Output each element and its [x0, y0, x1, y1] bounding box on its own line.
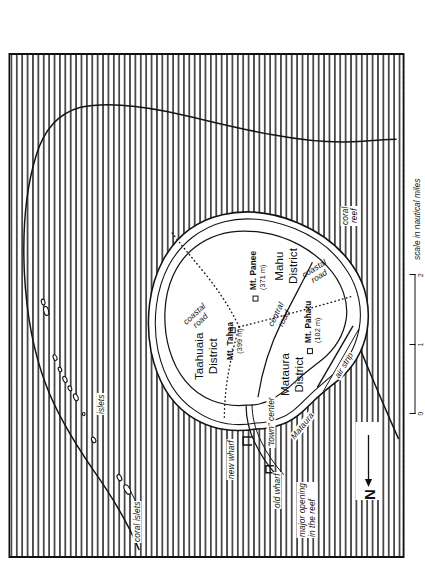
peak-marker-pahatu	[307, 349, 312, 354]
coral-reef-line2: reef	[348, 208, 358, 223]
district-name-line2: District	[292, 357, 304, 393]
scale-tick-0	[409, 413, 415, 414]
peak-elevation: (102 m)	[313, 301, 321, 343]
north-arrow: N	[355, 422, 381, 500]
scale-label-0: 0	[416, 412, 423, 416]
district-name-line1: Mahu	[272, 251, 284, 280]
label-coral-reef: coral reef	[340, 206, 359, 226]
figure-page: Taahuaia District Mataura District Mahu …	[0, 0, 425, 564]
district-name-line1: Mataura	[278, 353, 290, 396]
north-letter: N	[360, 489, 377, 500]
district-name-line2: District	[286, 248, 298, 284]
label-district-mataura: Mataura District	[278, 353, 305, 396]
rotated-figure-stage: Taahuaia District Mataura District Mahu …	[0, 0, 425, 564]
scale-bar-caption: scale in nautical miles	[411, 179, 421, 260]
label-coral-islets: coral islets	[132, 501, 141, 543]
label-district-mahu: Mahu District	[272, 248, 299, 284]
scale-tick-2	[409, 274, 415, 275]
label-major-opening-in-reef: major opening in the reef	[296, 482, 317, 538]
label-district-taahuaia: Taahuaia District	[192, 333, 219, 380]
label-peak-pahatu: Mt. Pahatu (102 m)	[304, 301, 321, 343]
major-opening-line2: in the reef	[306, 499, 316, 537]
north-arrow-icon	[361, 433, 375, 487]
map-vector-layer	[10, 55, 402, 556]
peak-elevation: (371 m)	[258, 251, 266, 290]
scale-label-2: 2	[416, 273, 423, 277]
district-name-line2: District	[206, 338, 218, 374]
coral-islet-shapes	[40, 299, 131, 496]
map-frame: Taahuaia District Mataura District Mahu …	[8, 53, 404, 558]
scale-bar: 0 1 2 scale in nautical miles	[408, 194, 424, 414]
label-islets: islets	[96, 393, 105, 415]
district-name-line1: Taahuaia	[192, 333, 204, 380]
peak-elevation: (399 m)	[235, 322, 243, 360]
scale-tick-1	[409, 344, 415, 345]
label-town-center: “town” center	[266, 396, 275, 448]
peak-name: Mt. Panee	[248, 251, 257, 290]
major-opening-line1: major opening	[296, 483, 306, 537]
peak-name: Mt. Tahaa	[225, 322, 234, 360]
label-peak-tahaa: Mt. Tahaa (399 m)	[226, 322, 243, 360]
peak-name: Mt. Pahatu	[303, 301, 312, 343]
coral-reef-line1: coral	[339, 207, 349, 225]
label-old-wharf: old wharf	[272, 472, 281, 509]
label-peak-panee: Mt. Panee (371 m)	[249, 251, 266, 290]
scale-label-1: 1	[416, 343, 423, 347]
label-new-wharf: new wharf	[226, 439, 235, 480]
peak-marker-panee	[253, 296, 258, 301]
new-wharf-structure	[243, 437, 252, 445]
